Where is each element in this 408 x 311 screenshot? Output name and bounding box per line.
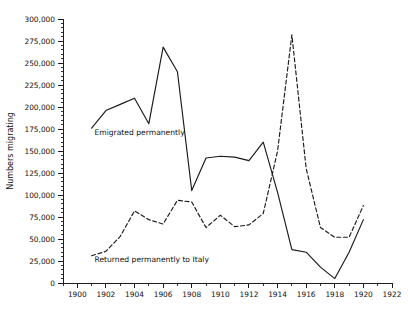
y-axis-tick-label: 100,000 (24, 191, 55, 200)
y-axis-tick-label: 200,000 (24, 103, 55, 112)
y-axis-tick-labels: 025,00050,00075,000100,000125,000150,000… (24, 15, 55, 288)
plot-series-group (92, 35, 364, 279)
x-axis-tick-label: 1910 (211, 290, 230, 299)
y-axis-tick-label: 50,000 (29, 235, 55, 244)
series-emigrated-permanently-line (92, 47, 364, 278)
y-axis-group: 025,00050,00075,000100,000125,000150,000… (6, 15, 63, 288)
y-axis-tick-label: 150,000 (24, 147, 55, 156)
y-axis-tick-label: 175,000 (24, 125, 55, 134)
x-axis-tick-label: 1900 (68, 290, 87, 299)
x-axis-tick-label: 1918 (325, 290, 344, 299)
x-axis-group: 1900190219041906190819101912191419161918… (63, 283, 401, 299)
series-label-emigrated-permanently: Emigrated permanently (94, 128, 185, 137)
y-axis-tick-label: 250,000 (24, 59, 55, 68)
x-axis-tick-label: 1914 (268, 290, 287, 299)
x-axis-tick-label: 1908 (182, 290, 201, 299)
x-axis-tick-label: 1902 (97, 290, 116, 299)
x-axis-tick-label: 1916 (297, 290, 316, 299)
x-axis-tick-label: 1912 (240, 290, 259, 299)
y-axis-tick-label: 25,000 (29, 257, 55, 266)
series-returned-to-italy-line (92, 35, 364, 256)
x-axis-tick-label: 1922 (383, 290, 402, 299)
migration-line-chart: 025,00050,00075,000100,000125,000150,000… (0, 0, 408, 311)
y-axis-tick-label: 275,000 (24, 37, 55, 46)
y-axis-tick-label: 225,000 (24, 81, 55, 90)
y-axis-tick-label: 0 (50, 279, 55, 288)
y-axis-title: Numbers migrating (6, 112, 15, 190)
y-axis-tick-label: 75,000 (29, 213, 55, 222)
y-axis-tick-label: 125,000 (24, 169, 55, 178)
y-axis-tick-label: 300,000 (24, 15, 55, 24)
x-axis-tick-label: 1904 (125, 290, 144, 299)
series-annotations: Emigrated permanently Returned permanent… (94, 128, 209, 264)
chart-canvas: 025,00050,00075,000100,000125,000150,000… (0, 0, 408, 311)
x-axis-tick-label: 1906 (154, 290, 173, 299)
x-axis-tick-label: 1920 (354, 290, 373, 299)
x-axis-tick-labels: 1900190219041906190819101912191419161918… (68, 290, 402, 299)
series-label-returned-to-italy: Returned permanently to Italy (94, 255, 209, 264)
